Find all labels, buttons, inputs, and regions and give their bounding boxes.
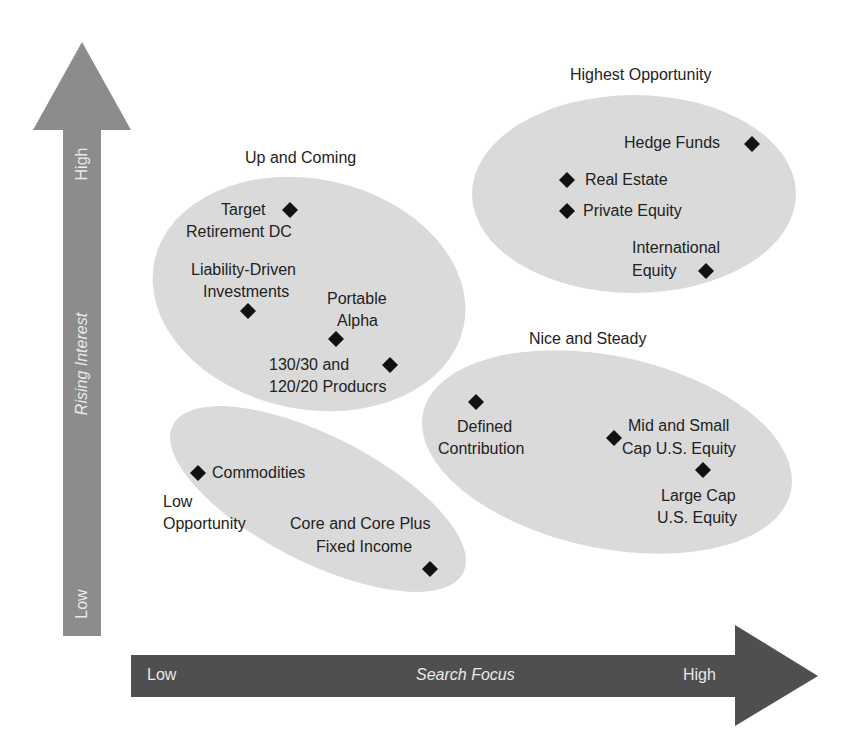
label-extension-line1: 130/30 and [269,354,349,376]
label-mid-small-cap-line1: Mid and Small [628,415,729,437]
label-international-equity-line2: Equity [632,260,676,282]
label-ldi-line1: Liability-Driven [191,259,296,281]
label-portable-alpha-line1: Portable [327,288,387,310]
x-axis-title: Search Focus [416,666,515,684]
group-title-nice-and-steady: Nice and Steady [529,329,646,349]
label-mid-small-cap-line2: Cap U.S. Equity [622,438,736,460]
label-target-retirement-line1: Target [221,199,265,221]
group-title-low-opportunity-line2: Opportunity [163,514,246,534]
label-ldi-line2: Investments [203,281,289,303]
label-large-cap-line1: Large Cap [661,485,736,507]
label-target-retirement-line2: Retirement DC [186,221,292,243]
label-private-equity: Private Equity [583,200,682,222]
x-axis-low-label: Low [147,666,176,684]
label-international-equity-line1: International [632,237,720,259]
label-core-fixed-income-line2: Fixed Income [316,536,412,558]
label-hedge-funds: Hedge Funds [624,132,720,154]
y-axis-low-label: Low [73,589,91,618]
label-core-fixed-income-line1: Core and Core Plus [290,513,431,535]
group-title-up-and-coming: Up and Coming [245,148,356,168]
y-axis-high-label: High [73,148,91,181]
group-title-low-opportunity-line1: Low [163,492,192,512]
label-defined-contribution-line2: Contribution [438,438,524,460]
y-axis-title: Rising Interest [73,313,91,415]
group-title-highest-opportunity: Highest Opportunity [570,65,711,85]
diagram-canvas [0,0,863,751]
label-commodities: Commodities [212,462,305,484]
label-extension-line2: 120/20 Producrs [269,376,386,398]
label-real-estate: Real Estate [585,169,668,191]
label-defined-contribution-line1: Defined [457,416,512,438]
label-portable-alpha-line2: Alpha [337,310,378,332]
label-large-cap-line2: U.S. Equity [657,507,737,529]
x-axis-high-label: High [683,666,716,684]
opportunity-matrix-diagram: High Rising Interest Low Low Search Focu… [0,0,863,751]
